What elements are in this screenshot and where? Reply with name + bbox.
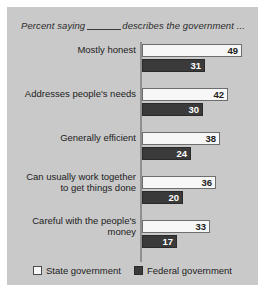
bar-value-state: 49 [227,45,238,56]
chart-title-blank [87,29,121,30]
category-label-line: Mostly honest [11,44,136,55]
bar-row-federal: 17 [142,235,177,248]
category-label-line: money [11,226,136,237]
bar-value-federal: 20 [168,192,179,203]
bar-group: Mostly honest 49 31 [7,44,258,75]
bar-federal[interactable]: 30 [142,103,203,116]
legend-item-state[interactable]: State government [33,265,121,276]
chart-legend: State government Federal government [7,265,258,276]
category-label: Can usually work together to get things … [11,171,136,193]
bar-state[interactable]: 38 [142,132,220,145]
category-label: Mostly honest [11,44,136,55]
bar-value-state: 38 [205,133,216,144]
bar-group: Can usually work together to get things … [7,176,258,207]
bar-value-federal: 31 [190,60,201,71]
legend-label-federal: Federal government [147,265,232,276]
legend-swatch-state-icon [33,266,42,275]
category-label: Addresses people's needs [11,88,136,99]
bar-group: Careful with the people's money 33 17 [7,220,258,251]
chart-title-prefix: Percent saying [21,20,85,31]
category-label-line: Generally efficient [11,132,136,143]
chart-title: Percent sayingdescribes the government .… [21,20,253,31]
bar-federal[interactable]: 31 [142,59,205,72]
bar-value-state: 42 [213,89,224,100]
bar-federal[interactable]: 17 [142,235,177,248]
bar-federal[interactable]: 24 [142,147,191,160]
bar-state[interactable]: 36 [142,176,216,189]
bar-row-state: 33 [142,220,210,233]
bar-federal[interactable]: 20 [142,191,183,204]
bar-value-federal: 30 [188,104,199,115]
category-label-line: Can usually work together [11,171,136,182]
chart-title-suffix: describes the government ... [122,20,245,31]
bar-state[interactable]: 49 [142,44,242,57]
legend-swatch-federal-icon [134,266,143,275]
bar-value-federal: 24 [176,148,187,159]
bar-row-state: 38 [142,132,220,145]
category-label-line: Addresses people's needs [11,88,136,99]
bar-row-state: 49 [142,44,242,57]
bar-row-federal: 24 [142,147,191,160]
category-label-line: to get things done [11,182,136,193]
category-label: Careful with the people's money [11,215,136,237]
bar-row-state: 42 [142,88,228,101]
bar-state[interactable]: 42 [142,88,228,101]
bar-state[interactable]: 33 [142,220,210,233]
legend-item-federal[interactable]: Federal government [134,265,232,276]
bar-row-federal: 20 [142,191,183,204]
bar-row-state: 36 [142,176,216,189]
category-label: Generally efficient [11,132,136,143]
category-label-line: Careful with the people's [11,215,136,226]
bar-row-federal: 30 [142,103,203,116]
bar-group: Addresses people's needs 42 30 [7,88,258,119]
bar-group: Generally efficient 38 24 [7,132,258,163]
legend-label-state: State government [46,265,121,276]
bar-value-state: 36 [201,177,212,188]
bar-value-federal: 17 [162,236,173,247]
chart-panel: Percent sayingdescribes the government .… [7,7,258,285]
bar-value-state: 33 [195,221,206,232]
bar-row-federal: 31 [142,59,205,72]
plot-area: Mostly honest 49 31 Addresses people's n… [7,42,258,264]
